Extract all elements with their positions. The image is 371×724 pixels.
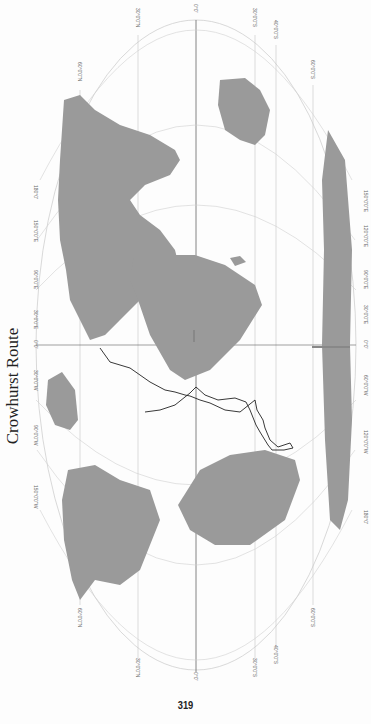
svg-text:30°0'0"S: 30°0'0"S (252, 658, 258, 678)
svg-text:30°0'0"E: 30°0'0"E (363, 305, 369, 325)
svg-text:60°0'0"S: 60°0'0"S (310, 608, 316, 628)
africa (130, 250, 262, 380)
svg-text:180°0': 180°0' (363, 510, 369, 524)
svg-text:30°0'0"E: 30°0'0"E (33, 310, 39, 330)
map-title: Crowhurst Route (3, 311, 27, 461)
madagascar (230, 256, 246, 266)
longitude-labels-south: 150°0'0"E 120°0'0"E 90°0'0"E 30°0'0"E 0°… (363, 190, 369, 524)
svg-text:60°0'0"N: 60°0'0"N (77, 608, 83, 628)
svg-text:90°0'0"E: 90°0'0"E (363, 270, 369, 290)
north-america (62, 465, 160, 600)
svg-text:60°0'0"W: 60°0'0"W (363, 375, 369, 396)
svg-text:60°0'0"N: 60°0'0"N (77, 62, 83, 82)
svg-text:30°0'0"N: 30°0'0"N (135, 658, 141, 678)
world-map: 60°0'0"N 30°0'0"N 0°0' 30°0'0"S 40°0'0"S… (0, 0, 371, 724)
longitude-labels-north: 180°0' 150°0'0"E 90°0'0"E 30°0'0"E 0°0' … (33, 185, 39, 509)
svg-text:0°0': 0°0' (363, 340, 369, 349)
antarctica (322, 130, 352, 530)
svg-text:0°0': 0°0' (193, 672, 199, 681)
svg-text:150°0'0"E: 150°0'0"E (33, 220, 39, 243)
australia (218, 78, 270, 145)
svg-text:150°0'0"E: 150°0'0"E (363, 190, 369, 213)
svg-text:40°0'0"S: 40°0'0"S (273, 20, 279, 40)
svg-text:90°0'0"E: 90°0'0"E (33, 270, 39, 290)
book-page: 60°0'0"N 30°0'0"N 0°0' 30°0'0"S 40°0'0"S… (0, 0, 371, 724)
latitude-labels-top: 60°0'0"N 30°0'0"N 0°0' 30°0'0"S 40°0'0"S… (77, 4, 316, 82)
svg-text:0°0': 0°0' (193, 4, 199, 13)
svg-text:40°0'0"S: 40°0'0"S (273, 645, 279, 665)
svg-text:0°0': 0°0' (33, 340, 39, 349)
svg-text:30°0'0"W: 30°0'0"W (33, 370, 39, 391)
svg-text:120°0'0"W: 120°0'0"W (363, 430, 369, 454)
svg-text:60°0'0"S: 60°0'0"S (310, 60, 316, 80)
prime-meridian-annotation (193, 330, 195, 342)
antarctica-annotation (312, 346, 350, 348)
land-masses (46, 78, 352, 600)
svg-text:90°0'0"W: 90°0'0"W (33, 425, 39, 446)
svg-text:30°0'0"N: 30°0'0"N (135, 8, 141, 28)
svg-text:180°0': 180°0' (33, 185, 39, 199)
svg-text:120°0'0"E: 120°0'0"E (363, 225, 369, 248)
svg-text:150°0'0"W: 150°0'0"W (33, 485, 39, 509)
greenland (46, 372, 78, 430)
page-number: 319 (28, 699, 343, 711)
svg-text:30°0'0"S: 30°0'0"S (252, 8, 258, 28)
